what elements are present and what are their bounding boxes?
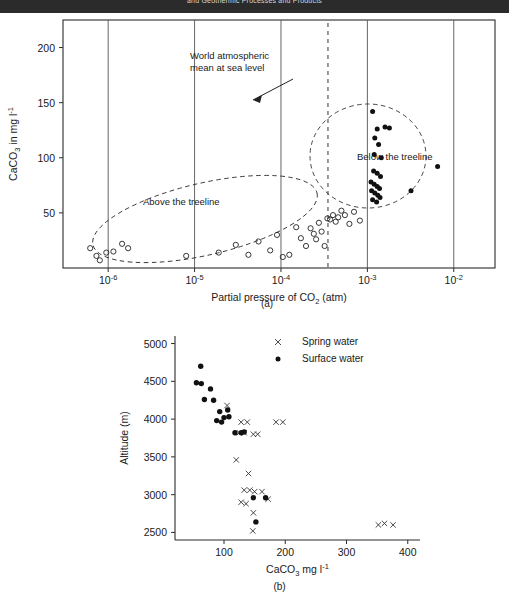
- data-point-open-19: [308, 226, 313, 231]
- data-point-open-22: [316, 220, 321, 225]
- x-axis-label-b: CaCO3 mg l-1: [266, 562, 329, 578]
- data-point-open-29: [336, 215, 341, 220]
- data-point-dot-14: [242, 429, 247, 434]
- legend-marker-surface-water: [276, 357, 281, 362]
- data-point-x-9: [234, 457, 239, 462]
- figure-panel-b: 250030003500400045005000100200300400CaCO…: [0, 318, 509, 599]
- data-point-open-32: [347, 221, 352, 226]
- panel-label-a: (a): [261, 298, 273, 309]
- data-point-filled-0: [370, 109, 375, 114]
- data-point-open-27: [330, 213, 335, 218]
- data-point-x-19: [250, 528, 255, 533]
- data-point-dot-6: [217, 409, 222, 414]
- data-point-open-10: [246, 252, 251, 257]
- data-point-dot-7: [225, 407, 230, 412]
- xtick-label-3: 10-3: [358, 273, 376, 286]
- data-point-dot-12: [232, 430, 237, 435]
- data-point-dot-0: [198, 364, 203, 369]
- data-point-x-16: [243, 501, 248, 506]
- data-point-x-20: [376, 522, 381, 527]
- data-point-open-12: [268, 248, 273, 253]
- data-point-x-21: [382, 521, 387, 526]
- page-header-bar: and Geothermic Processes and Products: [0, 0, 509, 13]
- data-point-dot-16: [263, 495, 268, 500]
- xtick-label-b-2: 300: [338, 546, 356, 558]
- data-point-x-8: [255, 432, 260, 437]
- scatter-chart-a: 10-610-510-410-310-250100150200Partial p…: [0, 13, 509, 323]
- data-point-x-10: [246, 471, 251, 476]
- data-point-filled-4: [383, 124, 388, 129]
- data-point-filled-6: [372, 152, 377, 157]
- data-point-filled-22: [435, 164, 440, 169]
- data-point-x-11: [242, 487, 247, 492]
- series-spring-water-b: [224, 403, 395, 534]
- data-point-open-34: [357, 218, 362, 223]
- data-point-filled-19: [374, 199, 379, 204]
- data-point-x-22: [390, 522, 395, 527]
- data-point-x-15: [238, 500, 243, 505]
- data-point-dot-10: [214, 418, 219, 423]
- below-treeline-label: Below the treeline: [357, 151, 433, 162]
- x-axis-label-a: Partial pressure of CO2 (atm): [211, 291, 346, 306]
- world-mean-label-line1: World atmospheric: [190, 50, 269, 61]
- data-point-x-4: [280, 419, 285, 424]
- scatter-chart-b: 250030003500400045005000100200300400CaCO…: [0, 318, 509, 599]
- xtick-label-1: 10-5: [185, 273, 203, 286]
- data-point-dot-5: [211, 398, 216, 403]
- data-point-filled-5: [387, 126, 392, 131]
- data-point-open-20: [311, 231, 316, 236]
- data-point-dot-9: [226, 414, 231, 419]
- data-point-dot-3: [208, 386, 213, 391]
- data-point-open-16: [294, 225, 299, 230]
- plot-frame-a: [63, 20, 495, 268]
- data-point-dot-11: [219, 419, 224, 424]
- above-treeline-label: Above the treeline: [143, 196, 220, 207]
- page-header-title: and Geothermic Processes and Products: [0, 0, 509, 4]
- data-point-dot-1: [194, 380, 199, 385]
- data-point-open-2: [97, 258, 102, 263]
- data-point-open-5: [120, 241, 125, 246]
- data-point-open-24: [322, 243, 327, 248]
- world-mean-label-line2: mean at sea level: [190, 62, 264, 73]
- legend-marker-spring-water: [275, 339, 281, 345]
- xtick-label-2: 10-4: [272, 273, 290, 286]
- data-point-open-6: [126, 246, 131, 251]
- ytick-label-b-4: 4500: [144, 375, 168, 387]
- data-point-dot-2: [199, 381, 204, 386]
- ytick-label-3: 200: [37, 42, 55, 54]
- ytick-label-b-5: 5000: [144, 338, 168, 350]
- data-point-x-13: [252, 489, 257, 494]
- ytick-label-0: 50: [43, 207, 55, 219]
- y-axis-label-a: CaCO3 in mg l-1: [6, 107, 22, 181]
- ytick-label-2: 150: [37, 97, 55, 109]
- data-point-x-3: [273, 419, 278, 424]
- data-point-filled-10: [378, 174, 383, 179]
- data-point-open-31: [342, 213, 347, 218]
- data-point-open-21: [314, 237, 319, 242]
- y-axis-label-b: Altitude (m): [118, 411, 130, 465]
- data-point-filled-21: [409, 188, 414, 193]
- ytick-label-b-1: 3000: [144, 489, 168, 501]
- data-point-open-7: [184, 253, 189, 258]
- cluster-above-treeline: [85, 158, 325, 280]
- data-point-open-13: [274, 232, 279, 237]
- ytick-label-b-2: 3500: [144, 451, 168, 463]
- data-point-dot-15: [251, 495, 256, 500]
- data-point-filled-3: [376, 142, 381, 147]
- data-point-open-33: [351, 209, 356, 214]
- data-point-x-1: [238, 419, 243, 424]
- legend-label-surface-water: Surface water: [302, 353, 364, 364]
- data-point-open-0: [88, 246, 93, 251]
- data-point-dot-17: [253, 519, 258, 524]
- data-point-open-15: [287, 252, 292, 257]
- data-point-x-18: [251, 510, 256, 515]
- series-spring-water-a: [88, 208, 363, 263]
- data-point-filled-1: [375, 127, 380, 132]
- xtick-label-b-1: 200: [276, 546, 294, 558]
- data-point-open-11: [256, 239, 261, 244]
- data-point-open-17: [298, 236, 303, 241]
- ytick-label-1: 100: [37, 152, 55, 164]
- data-point-filled-2: [372, 135, 377, 140]
- data-point-open-9: [233, 242, 238, 247]
- xtick-label-b-3: 400: [399, 546, 417, 558]
